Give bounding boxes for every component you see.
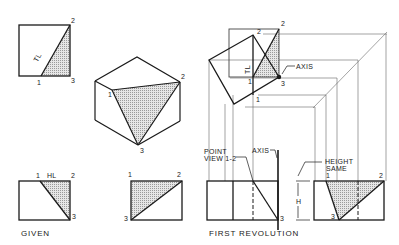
point-view-label-1: POINT [204,148,227,155]
given-top-view [19,25,70,76]
given-front-v3: 3 [72,213,76,220]
rev-top-v2b: 2 [257,28,261,35]
given-front-view [19,181,70,220]
rev-top-axis: AXIS [296,63,313,70]
rev-side-v3: 3 [331,213,335,220]
rev-top-v1: 1 [248,78,252,85]
rev-front-axis: AXIS [252,147,269,154]
cube-v1: 1 [108,91,112,98]
rev-top-v2a: 2 [281,20,285,27]
descriptive-geometry-figure: 2 3 1 TL 2 1 3 1 HL 2 3 GIVEN 1 2 3 2 2 … [0,0,399,245]
given-top-v3: 3 [71,77,75,84]
given-top-v2: 2 [71,17,75,24]
drawing [0,0,399,245]
rev-side-v1: 1 [326,172,330,179]
aux-v3: 3 [124,215,128,222]
height-same-label-1: HEIGHT [325,158,353,165]
rev-top-v3: 3 [281,80,285,87]
given-front-v1: 1 [36,172,40,179]
given-caption: GIVEN [21,230,50,237]
rev-front-v3: 3 [280,215,284,222]
first-revolution-caption: FIRST REVOLUTION [209,230,299,237]
given-front-v2: 2 [71,172,75,179]
aux-v2: 2 [177,171,181,178]
cube-v2: 2 [181,73,185,80]
rev-top-v1b: 1 [256,96,260,103]
given-top-v1: 1 [37,79,41,86]
height-same-label-2: SAME [326,165,347,172]
side-view [131,181,182,220]
given-front-hl: HL [47,172,57,179]
aux-v1: 1 [128,171,132,178]
point-view-label-2: VIEW 1-2 [204,155,236,162]
isometric-cube [95,57,180,145]
revolution-front-view [207,150,278,230]
rev-side-v2: 2 [379,172,383,179]
height-dim-h: H [296,198,301,205]
cube-v3: 3 [140,147,144,154]
rev-top-tl: TL [244,65,251,74]
revolution-top-view [209,29,295,104]
